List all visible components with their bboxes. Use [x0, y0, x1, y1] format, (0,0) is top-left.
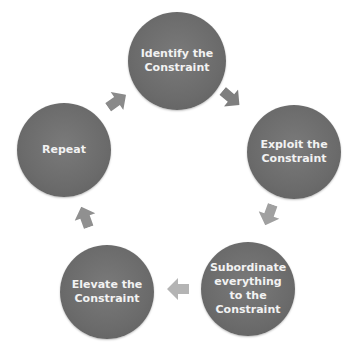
node-repeat: Repeat	[17, 103, 111, 197]
node-elevate: Elevate the Constraint	[60, 245, 154, 339]
node-label: Repeat	[36, 143, 92, 157]
arrow-identify-to-exploit-icon	[216, 83, 247, 114]
node-identify: Identify the Constraint	[128, 12, 226, 110]
node-label: Exploit the Constraint	[247, 138, 341, 166]
node-exploit: Exploit the Constraint	[247, 105, 341, 199]
node-label: Elevate the Constraint	[60, 278, 154, 306]
node-label: Identify the Constraint	[128, 47, 226, 75]
arrow-repeat-to-identify-icon	[102, 86, 133, 117]
arrow-exploit-to-subordinate-icon	[255, 201, 283, 229]
node-label: Subordinate everything to the Constraint	[201, 261, 295, 317]
arrow-subordinate-to-elevate-icon	[167, 278, 189, 300]
node-subordinate: Subordinate everything to the Constraint	[201, 242, 295, 336]
arrow-elevate-to-repeat-icon	[71, 203, 99, 231]
